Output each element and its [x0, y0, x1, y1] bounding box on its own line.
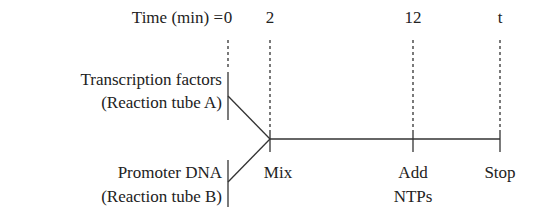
timeline-graphic — [0, 0, 547, 220]
